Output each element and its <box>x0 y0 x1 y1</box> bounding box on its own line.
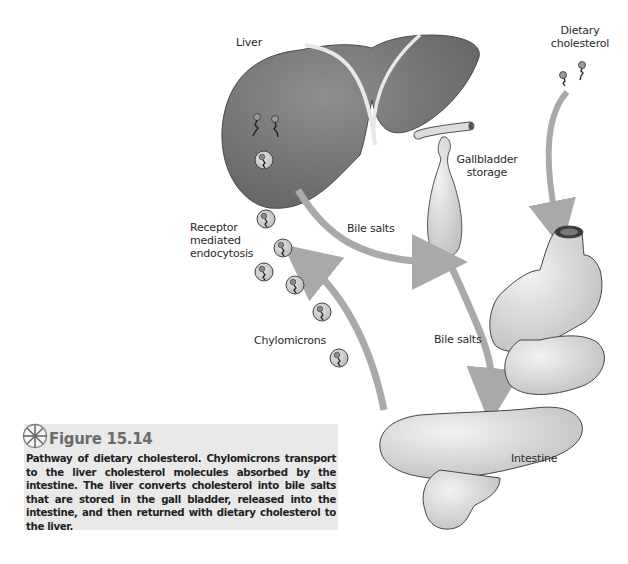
dietary-cholesterol-label-line1: Dietary <box>540 24 620 37</box>
chylomicrons-label: Chylomicrons <box>254 334 326 347</box>
gallbladder-organ <box>418 122 474 258</box>
receptor-label-line3: endocytosis <box>190 247 253 260</box>
dietary-cholesterol-molecules-icon <box>560 62 586 87</box>
gallbladder-label-line1: Gallbladder <box>452 153 522 166</box>
liver-label: Liver <box>236 36 262 49</box>
receptor-mediated-endocytosis-label: Receptor mediated endocytosis <box>190 221 253 260</box>
dietary-cholesterol-label-line2: cholesterol <box>540 37 620 50</box>
bile-salts-arrow-lower <box>452 268 492 396</box>
figure-number: Figure 15.14 <box>49 430 152 448</box>
bile-salts-upper-label: Bile salts <box>347 222 395 235</box>
receptor-label-line1: Receptor <box>190 221 253 234</box>
receptor-label-line2: mediated <box>190 234 253 247</box>
chylomicron-icon <box>255 151 273 169</box>
dietary-cholesterol-arrow <box>549 92 567 225</box>
figure-heading: Figure 15.14 <box>24 428 152 450</box>
bile-salts-lower-label: Bile salts <box>434 333 482 346</box>
figure-caption-text: Pathway of dietary cholesterol. Chylomic… <box>26 452 336 534</box>
gallbladder-storage-label: Gallbladder storage <box>452 153 522 179</box>
gallbladder-label-line2: storage <box>452 166 522 179</box>
pinwheel-icon <box>22 423 48 449</box>
dietary-cholesterol-label: Dietary cholesterol <box>540 24 620 50</box>
intestine-label: Intestine <box>511 452 557 465</box>
